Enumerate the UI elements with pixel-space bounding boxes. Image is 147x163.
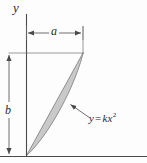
shaded-region-fill bbox=[27, 53, 84, 156]
curve-label-leader-line bbox=[71, 105, 91, 119]
y-axis-label: y bbox=[13, 1, 19, 14]
equation-exponent: 2 bbox=[113, 111, 117, 119]
equation-equals-sign: = bbox=[94, 112, 102, 124]
dimension-label-b: b bbox=[4, 102, 12, 118]
dimension-label-a: a bbox=[49, 25, 59, 37]
figure-canvas bbox=[0, 0, 147, 163]
parabolic-area-figure: y a b y=kx2 bbox=[0, 0, 147, 163]
curve-equation-label: y=kx2 bbox=[89, 113, 116, 124]
